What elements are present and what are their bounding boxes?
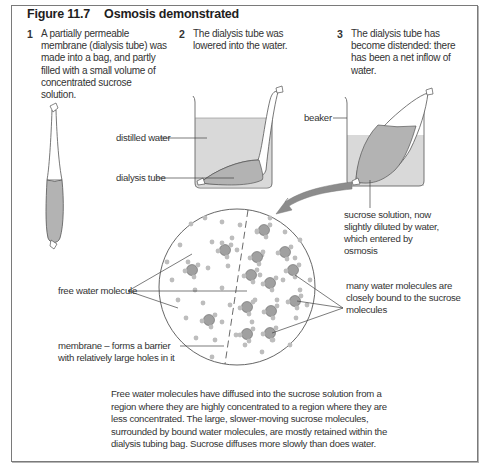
dialysis-bag-initial [46, 103, 63, 249]
beaker-step-3 [333, 88, 433, 208]
label-membrane: membrane – forms a barrier with relative… [58, 340, 183, 364]
label-sucrose-solution: sucrose solution, now slightly diluted b… [344, 209, 444, 257]
label-dialysis-tube: dialysis tube [116, 172, 166, 184]
label-free-water-molecule: free water molecule [58, 285, 137, 297]
label-bound-water: many water molecules are closely bound t… [346, 280, 476, 316]
zoom-arrow [276, 182, 352, 214]
label-distilled-water: distilled water [116, 132, 170, 144]
beaker-step-2 [156, 86, 283, 188]
label-beaker: beaker [304, 112, 332, 124]
figure-caption: Free water molecules have diffused into … [111, 388, 401, 451]
